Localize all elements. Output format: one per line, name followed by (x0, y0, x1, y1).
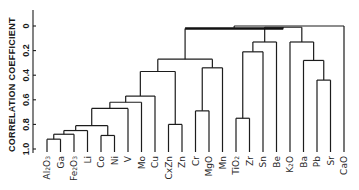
y-tick-label: 0 (21, 23, 31, 28)
leaf-label-li: Li (83, 156, 93, 164)
leaf-label-ba: Ba (299, 156, 309, 168)
y-tick-label: 0.2 (21, 44, 31, 57)
leaf-label-co: Co (96, 156, 106, 168)
leaf-label-ni: Ni (110, 156, 120, 165)
leaf-label-fe2o3: Fe2O3 (69, 156, 79, 181)
dendrogram-branches (47, 26, 344, 152)
leaf-label-k2o: K2O (285, 156, 295, 173)
leaf-label-pb: Pb (312, 156, 322, 167)
leaf-label-mn: Mn (218, 156, 228, 169)
y-tick-label: 1.0 (21, 143, 31, 156)
leaf-label-zr: Zr (245, 156, 255, 166)
y-axis: CORRELATION COEFFICIENT 00.20.40.60.81.0 (7, 10, 36, 155)
leaf-label-be: Be (272, 156, 282, 168)
y-tick-label: 0.8 (21, 118, 31, 131)
leaf-label-sn: Sn (258, 156, 268, 167)
leaf-label-mo: Mo (137, 156, 147, 170)
leaf-label-tio2: TiO2 (231, 156, 241, 176)
y-tick-label: 0.4 (21, 69, 31, 82)
leaf-label-ga: Ga (56, 156, 66, 169)
leaf-label-cxzn: CxZn (164, 156, 174, 179)
dendrogram-chart: CORRELATION COEFFICIENT 00.20.40.60.81.0… (0, 0, 359, 190)
leaf-label-sr: Sr (326, 156, 336, 166)
leaf-labels: Al2O3GaFe2O3LiCoNiVMoCuCxZnZnCrMgOMnTiO2… (42, 155, 349, 181)
leaf-label-cao: CaO (339, 156, 349, 175)
leaf-label-mgo: MgO (204, 156, 214, 177)
leaf-label-al2o3: Al2O3 (42, 156, 52, 180)
leaf-label-v: V (123, 155, 133, 162)
leaf-label-zn: Zn (177, 156, 187, 168)
y-axis-title: CORRELATION COEFFICIENT (7, 17, 17, 152)
y-axis-ticks: 00.20.40.60.81.0 (21, 23, 36, 155)
y-tick-label: 0.6 (21, 94, 31, 107)
leaf-label-cr: Cr (191, 156, 201, 166)
leaf-label-cu: Cu (150, 156, 160, 168)
